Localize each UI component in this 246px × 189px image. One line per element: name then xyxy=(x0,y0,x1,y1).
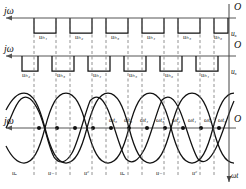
omega-t-label-5: ωt₂ xyxy=(172,117,180,123)
top-pulse-label-1: uₕ₁ xyxy=(39,34,47,40)
figure-root: jω jω jω O O O uₓ uₓ ωt uₕ₁ uₕ₂ uₕ₃ uₕ₄ … xyxy=(0,0,246,189)
omega-t-label-1: ωt₆ xyxy=(109,117,117,123)
top-pulse-label-4: uₕ₄ xyxy=(147,34,155,40)
mid-pulse-label-5: uₕ₆ xyxy=(165,72,173,78)
bottom-y-label: jω xyxy=(4,116,14,126)
top-pulse-group xyxy=(34,18,228,33)
phase-label-1: uₐ xyxy=(12,170,17,176)
bottom-right-label: ωt xyxy=(231,172,238,180)
alignment-dashed-lines xyxy=(34,18,214,175)
top-right-label: uₓ xyxy=(231,30,237,38)
omega-t-label-7: ωt₆ xyxy=(204,117,212,123)
top-axis-arrow xyxy=(6,16,12,21)
omega-t-label-6: ωt₁ xyxy=(188,117,196,123)
phase-label-5: u₋ xyxy=(156,170,162,176)
phase-label-2: u₋ xyxy=(48,170,54,176)
phase-label-3: uᶜ xyxy=(84,170,89,176)
middle-origin-label: O xyxy=(234,40,241,50)
top-pulse-label-3: uₕ₃ xyxy=(111,34,119,40)
mid-pulse-label-3: uₕ₄ xyxy=(93,72,101,78)
top-pulse-label-2: uₕ₂ xyxy=(75,34,83,40)
omega-t-label-2: ωt₅ xyxy=(124,117,132,123)
phase-label-6: uᶜ xyxy=(192,170,197,176)
middle-pulse-group xyxy=(22,56,218,71)
diagram-canvas xyxy=(0,0,246,189)
top-pulse-label-5: uₕ₅ xyxy=(183,34,191,40)
mid-pulse-label-1: uₕ₂ xyxy=(22,72,30,78)
omega-t-label-3: ωt₄ xyxy=(140,117,148,123)
mid-pulse-label-6: uₕ₁ xyxy=(201,72,209,78)
top-pulse-label-6: uₕ₆ xyxy=(214,34,222,40)
mid-pulse-label-4: uₕ₅ xyxy=(129,72,137,78)
top-y-label: jω xyxy=(4,6,14,16)
phase-label-4: uₐ xyxy=(120,170,125,176)
mid-pulse-label-2: uₕ₃ xyxy=(57,72,65,78)
middle-right-label: uₓ xyxy=(231,68,237,76)
omega-t-label-8: ωt₅ xyxy=(218,117,226,123)
bottom-origin-label: O xyxy=(234,114,241,124)
middle-y-label: jω xyxy=(4,44,14,54)
omega-t-label-4: ωt₃ xyxy=(156,117,164,123)
middle-axis-arrow xyxy=(6,54,12,59)
top-origin-label: O xyxy=(234,2,241,12)
